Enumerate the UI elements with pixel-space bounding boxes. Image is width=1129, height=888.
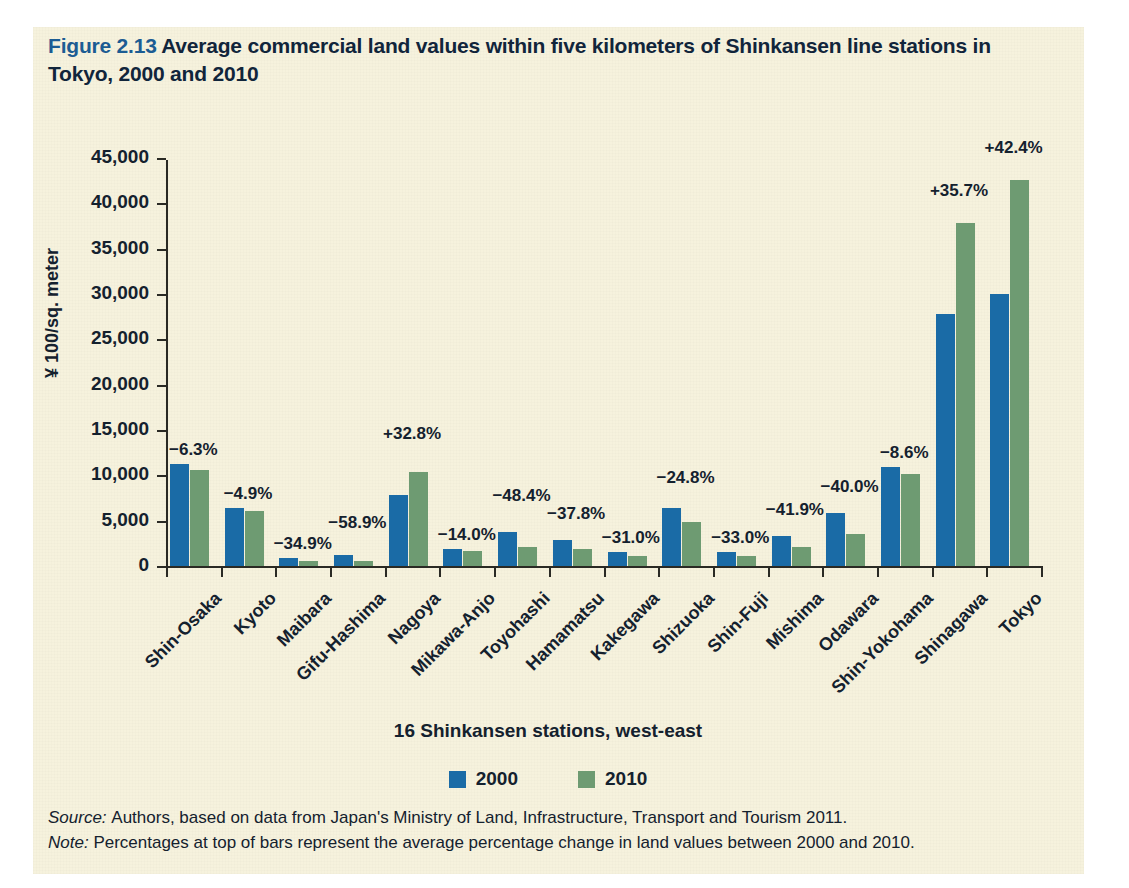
bar-2010[interactable] <box>518 547 537 566</box>
figure-notes: Source: Authors, based on data from Japa… <box>48 806 1058 855</box>
bar-2000[interactable] <box>772 536 791 566</box>
legend-label: 2000 <box>476 768 518 790</box>
bar-2000[interactable] <box>608 552 627 567</box>
y-tick: 40,000 <box>157 203 166 205</box>
x-tick <box>385 568 387 577</box>
y-tick: 30,000 <box>157 294 166 296</box>
bar-chart: ¥ 100/sq. meter 05,00010,00015,00020,000… <box>48 128 1048 728</box>
y-tick-label: 35,000 <box>91 237 149 259</box>
bar-percent-label: −48.4% <box>492 486 550 506</box>
bar-percent-label: −58.9% <box>328 513 386 533</box>
bar-group[interactable]: +42.4% <box>986 158 1041 566</box>
bar-percent-label: −33.0% <box>711 528 769 548</box>
bar-2010[interactable] <box>682 522 701 566</box>
bar-2000[interactable] <box>662 508 681 566</box>
bar-2010[interactable] <box>190 470 209 566</box>
bar-2000[interactable] <box>881 467 900 566</box>
y-tick: 15,000 <box>157 430 166 432</box>
x-category-label: Tokyo <box>995 588 1046 639</box>
bar-group[interactable]: −31.0% <box>604 158 659 566</box>
bar-group[interactable]: −4.9% <box>221 158 276 566</box>
figure-number: Figure 2.13 <box>48 34 157 57</box>
bar-group[interactable]: −6.3% <box>166 158 221 566</box>
y-axis-title: ¥ 100/sq. meter <box>42 248 63 378</box>
x-tick <box>932 568 934 577</box>
bar-2010[interactable] <box>1010 180 1029 566</box>
bar-2010[interactable] <box>956 223 975 566</box>
chart-legend: 20002010 <box>48 768 1048 790</box>
bar-2000[interactable] <box>936 314 955 566</box>
legend-swatch <box>449 771 466 788</box>
y-tick: 20,000 <box>157 385 166 387</box>
bar-percent-label: −40.0% <box>821 477 879 497</box>
bar-2000[interactable] <box>717 552 736 567</box>
bar-percent-label: −14.0% <box>438 525 496 545</box>
bar-2010[interactable] <box>463 551 482 566</box>
y-tick-label: 5,000 <box>101 509 149 531</box>
bar-2000[interactable] <box>170 464 189 566</box>
source-line: Source: Authors, based on data from Japa… <box>48 806 1058 831</box>
source-label: Source: <box>48 808 107 827</box>
x-tick <box>986 568 988 577</box>
x-category-label: Kyoto <box>230 588 281 639</box>
bar-percent-label: −4.9% <box>224 484 273 504</box>
bar-2010[interactable] <box>792 547 811 566</box>
y-tick: 10,000 <box>157 475 166 477</box>
bar-group[interactable]: −37.8% <box>549 158 604 566</box>
y-tick: 0 <box>157 566 166 568</box>
note-text: Percentages at top of bars represent the… <box>93 833 914 852</box>
bar-group[interactable]: −58.9% <box>330 158 385 566</box>
bar-group[interactable]: −24.8% <box>658 158 713 566</box>
bar-group[interactable]: −8.6% <box>877 158 932 566</box>
bar-group[interactable]: +32.8% <box>385 158 440 566</box>
bar-2000[interactable] <box>443 549 462 566</box>
note-line: Note: Percentages at top of bars represe… <box>48 831 1058 856</box>
bar-percent-label: −6.3% <box>169 440 218 460</box>
bar-group[interactable]: −14.0% <box>439 158 494 566</box>
bar-2010[interactable] <box>901 474 920 566</box>
legend-item[interactable]: 2010 <box>578 768 647 790</box>
plot-area: 05,00010,00015,00020,00025,00030,00035,0… <box>166 160 1041 568</box>
y-tick-label: 10,000 <box>91 463 149 485</box>
bar-2000[interactable] <box>553 540 572 566</box>
x-tick <box>221 568 223 577</box>
bar-group[interactable]: −40.0% <box>822 158 877 566</box>
x-tick <box>275 568 277 577</box>
bar-2000[interactable] <box>279 558 298 566</box>
bar-2010[interactable] <box>299 561 318 566</box>
y-tick: 45,000 <box>157 158 166 160</box>
y-tick: 35,000 <box>157 249 166 251</box>
bar-group[interactable]: −33.0% <box>713 158 768 566</box>
bar-2000[interactable] <box>334 555 353 566</box>
x-category-label: Shin-Osaka <box>141 588 226 673</box>
y-tick: 5,000 <box>157 521 166 523</box>
bar-group[interactable]: −41.9% <box>768 158 823 566</box>
x-tick <box>768 568 770 577</box>
page-title: Average commercial land values within fi… <box>48 34 991 85</box>
bar-group[interactable]: −34.9% <box>275 158 330 566</box>
figure-title-block: Figure 2.13 Average commercial land valu… <box>48 32 1008 88</box>
x-tick <box>658 568 660 577</box>
bar-2000[interactable] <box>389 495 408 566</box>
bar-2000[interactable] <box>498 532 517 566</box>
bar-percent-label: −24.8% <box>656 468 714 488</box>
legend-item[interactable]: 2000 <box>449 768 518 790</box>
bar-2000[interactable] <box>225 508 244 566</box>
bar-2010[interactable] <box>573 549 592 566</box>
bar-percent-label: −31.0% <box>602 528 660 548</box>
bar-2000[interactable] <box>826 513 845 566</box>
x-tick <box>877 568 879 577</box>
bar-2010[interactable] <box>409 472 428 566</box>
bar-2010[interactable] <box>245 511 264 566</box>
bar-2010[interactable] <box>846 534 865 566</box>
bar-2000[interactable] <box>990 294 1009 566</box>
bar-2010[interactable] <box>628 556 647 566</box>
bar-group[interactable]: +35.7% <box>932 158 987 566</box>
bar-percent-label: −8.6% <box>880 443 929 463</box>
bar-2010[interactable] <box>354 561 373 566</box>
bar-group[interactable]: −48.4% <box>494 158 549 566</box>
y-tick-label: 0 <box>138 554 149 576</box>
bar-2010[interactable] <box>737 556 756 566</box>
x-tick <box>330 568 332 577</box>
x-tick <box>1041 568 1043 577</box>
